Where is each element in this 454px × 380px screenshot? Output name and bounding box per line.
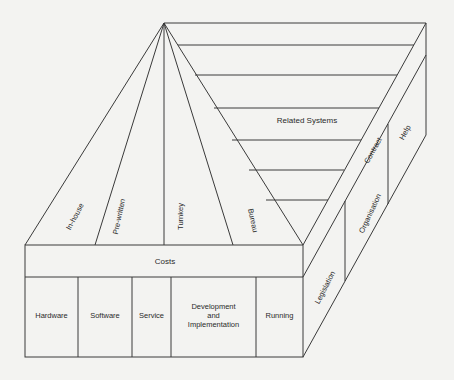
cost-column-hardware: Hardware bbox=[25, 311, 78, 320]
option-turnkey: Turnkey bbox=[176, 197, 185, 237]
cost-column-running: Running bbox=[256, 311, 303, 320]
cost-column-development: Development and Implementation bbox=[171, 302, 256, 329]
dev-line-1: Development bbox=[171, 302, 256, 311]
dev-line-2: and bbox=[171, 311, 256, 320]
cost-column-software: Software bbox=[78, 311, 132, 320]
costs-label: Costs bbox=[130, 257, 200, 266]
related-systems-label: Related Systems bbox=[262, 116, 352, 125]
house-diagram: In-house Pre-written Turnkey Bureau Rela… bbox=[0, 0, 454, 380]
cost-column-service: Service bbox=[132, 311, 171, 320]
dev-line-3: Implementation bbox=[171, 320, 256, 329]
